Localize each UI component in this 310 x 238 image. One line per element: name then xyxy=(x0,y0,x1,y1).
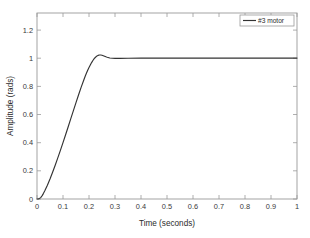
line-chart: 0 0.1 0.2 0.3 0.4 0.5 0.6 0.7 0.8 0.9 1 … xyxy=(0,0,310,238)
figure-background xyxy=(0,0,310,238)
legend[interactable]: #3 motor xyxy=(240,15,294,26)
y-tick-label: 0.6 xyxy=(23,110,33,119)
x-tick-label: 0.1 xyxy=(58,202,68,211)
x-axis-title: Time (seconds) xyxy=(139,219,195,228)
x-tick-label: 0.3 xyxy=(110,202,120,211)
y-axis-title: Amplitude (rads) xyxy=(6,76,15,136)
x-tick-label: 0.9 xyxy=(266,202,276,211)
x-tick-label: 0 xyxy=(35,202,39,211)
x-tick-label: 0.8 xyxy=(240,202,250,211)
y-tick-label: 0.4 xyxy=(23,138,33,147)
legend-label: #3 motor xyxy=(258,17,285,24)
x-tick-label: 0.5 xyxy=(162,202,172,211)
x-tick-label: 0.2 xyxy=(84,202,94,211)
x-tick-label: 0.4 xyxy=(136,202,146,211)
y-tick-label: 0.2 xyxy=(23,166,33,175)
x-tick-label: 0.6 xyxy=(188,202,198,211)
x-tick-label: 1 xyxy=(295,202,299,211)
y-tick-label: 0 xyxy=(29,195,33,204)
y-tick-label: 1.2 xyxy=(23,26,33,35)
y-tick-label: 1 xyxy=(29,54,33,63)
chart-figure: 0 0.1 0.2 0.3 0.4 0.5 0.6 0.7 0.8 0.9 1 … xyxy=(0,0,310,238)
x-tick-label: 0.7 xyxy=(214,202,224,211)
y-tick-label: 0.8 xyxy=(23,82,33,91)
